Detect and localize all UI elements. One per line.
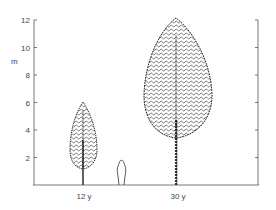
person-silhouette — [117, 160, 126, 185]
y-tick-4: 4 — [26, 126, 31, 135]
tree-12-years — [70, 102, 97, 185]
tree-growth-diagram: 12 10 8 6 4 2 m 12 y 30 y — [0, 0, 276, 210]
y-tick-6: 6 — [26, 99, 31, 108]
y-tick-8: 8 — [26, 71, 31, 80]
tree-30-years — [144, 18, 212, 185]
x-label-30y: 30 y — [170, 192, 185, 201]
x-label-12y: 12 y — [76, 192, 91, 201]
y-tick-2: 2 — [26, 154, 31, 163]
y-tick-12: 12 — [21, 16, 30, 25]
y-axis-unit: m — [11, 57, 18, 66]
y-tick-10: 10 — [21, 44, 30, 53]
